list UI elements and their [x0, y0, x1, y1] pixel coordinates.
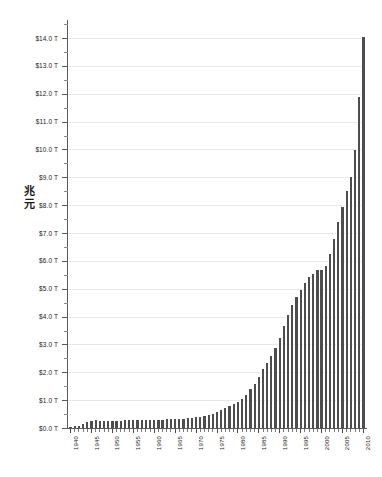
x-axis-tick-label: 1995 [303, 436, 309, 450]
gridline [68, 38, 365, 39]
x-axis-minor-tick [267, 429, 268, 432]
bar [294, 297, 297, 428]
x-axis-minor-tick [212, 429, 213, 432]
y-axis-tick-label: $1.0 T [18, 397, 58, 404]
bar [286, 315, 289, 428]
x-axis-minor-tick [200, 429, 201, 432]
x-axis-minor-tick [95, 429, 96, 432]
bar [248, 389, 251, 428]
x-axis-minor-tick [233, 429, 234, 432]
x-axis-minor-tick [120, 429, 121, 432]
y-axis-tick-label: $4.0 T [18, 313, 58, 320]
bar [160, 420, 163, 428]
x-axis-minor-tick [124, 429, 125, 432]
bar [106, 421, 109, 428]
x-axis-tick [91, 429, 92, 433]
bar [215, 412, 218, 428]
bar [253, 384, 256, 428]
x-axis-tick-label: 2010 [365, 436, 371, 450]
bar [148, 420, 151, 428]
x-axis-minor-tick [158, 429, 159, 432]
bar [94, 420, 97, 428]
bar [102, 421, 105, 428]
x-axis-tick [112, 429, 113, 433]
x-axis-minor-tick [208, 429, 209, 432]
bar [257, 377, 260, 428]
bar [278, 338, 281, 428]
x-axis-minor-tick [150, 429, 151, 432]
x-axis-minor-tick [179, 429, 180, 432]
x-axis-minor-tick [83, 429, 84, 432]
y-axis-tick-label: $13.0 T [18, 62, 58, 69]
bar [98, 421, 101, 428]
x-axis-minor-tick [242, 429, 243, 432]
x-axis-tick-label: 2000 [324, 436, 330, 450]
y-axis-tick-label: $0.0 T [18, 425, 58, 432]
x-axis-tick-label: 1970 [198, 436, 204, 450]
bar [127, 420, 130, 428]
bar [223, 408, 226, 428]
bar [315, 270, 318, 428]
bar [261, 369, 264, 428]
gridline [68, 122, 365, 123]
x-axis-minor-tick [275, 429, 276, 432]
bar [131, 420, 134, 428]
y-axis-tick-label: $2.0 T [18, 369, 58, 376]
x-axis-minor-tick [288, 429, 289, 432]
x-axis-minor-tick [334, 429, 335, 432]
y-axis-tick-label: $14.0 T [18, 35, 58, 42]
bar [190, 418, 193, 428]
bar [332, 239, 335, 428]
x-axis-minor-tick [246, 429, 247, 432]
bar [244, 395, 247, 428]
x-axis-tick-label: 1945 [94, 436, 100, 450]
y-axis-tick-label: $9.0 T [18, 174, 58, 181]
bar [324, 266, 327, 428]
x-axis-minor-tick [292, 429, 293, 432]
x-axis-minor-tick [87, 429, 88, 432]
x-axis-tick-label: 2005 [344, 436, 350, 450]
x-axis-minor-tick [187, 429, 188, 432]
bar [152, 420, 155, 428]
y-axis-title-char: 兆 [20, 185, 38, 198]
bar [173, 419, 176, 428]
bar [349, 177, 352, 428]
x-axis-minor-tick [359, 429, 360, 432]
x-axis-tick-label: 1980 [240, 436, 246, 450]
x-axis-minor-tick [183, 429, 184, 432]
bar [299, 290, 302, 428]
x-axis-tick-label: 1965 [177, 436, 183, 450]
bar [273, 348, 276, 428]
x-axis-tick-label: 1940 [73, 436, 79, 450]
x-axis-minor-tick [355, 429, 356, 432]
bar [156, 420, 159, 428]
bar [340, 207, 343, 428]
bar [328, 254, 331, 428]
gridline [68, 261, 365, 262]
bar [202, 416, 205, 428]
x-axis-minor-tick [221, 429, 222, 432]
x-axis-minor-tick [78, 429, 79, 432]
x-axis-minor-tick [283, 429, 284, 432]
y-axis-minor-tick [64, 24, 68, 25]
bar [89, 421, 92, 428]
y-axis-tick-label: $11.0 T [18, 118, 58, 125]
bar [290, 305, 293, 428]
y-axis-tick-label: $3.0 T [18, 341, 58, 348]
bar [186, 418, 189, 428]
x-axis-minor-tick [145, 429, 146, 432]
x-axis-minor-tick [166, 429, 167, 432]
bar [353, 150, 356, 428]
bar [194, 417, 197, 428]
y-axis-tick [62, 428, 68, 429]
bar [77, 426, 80, 428]
bar [307, 277, 310, 428]
x-axis-minor-tick [338, 429, 339, 432]
bar [211, 414, 214, 428]
gridline [68, 94, 365, 95]
x-axis-minor-tick [350, 429, 351, 432]
x-axis-minor-tick [329, 429, 330, 432]
x-axis-minor-tick [271, 429, 272, 432]
x-axis-minor-tick [116, 429, 117, 432]
bar [319, 270, 322, 428]
